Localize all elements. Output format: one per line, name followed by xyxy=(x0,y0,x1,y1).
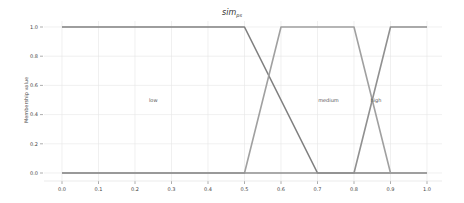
x-tick-label: 0.3 xyxy=(168,186,176,192)
x-tick-label: 0.6 xyxy=(277,186,285,192)
y-tick-label: 0.2 xyxy=(30,141,38,147)
x-tick-label: 0.9 xyxy=(387,186,395,192)
x-tick-label: 0.7 xyxy=(314,186,322,192)
x-tick-label: 0.1 xyxy=(95,186,103,192)
x-tick-label: 0.2 xyxy=(131,186,139,192)
region-label-high: high xyxy=(370,97,381,104)
region-label-low: low xyxy=(149,97,158,103)
y-axis-label: Membership value xyxy=(23,77,30,123)
x-tick-label: 0.5 xyxy=(241,186,249,192)
y-tick-label: 0.0 xyxy=(30,170,38,176)
x-tick-label: 0.0 xyxy=(58,186,66,192)
region-labels: lowmediumhigh xyxy=(149,97,381,104)
chart-title: simps xyxy=(222,8,242,19)
axes: 0.00.10.20.30.40.50.60.70.80.91.00.00.20… xyxy=(30,24,442,192)
region-label-medium: medium xyxy=(318,97,339,103)
y-tick-label: 1.0 xyxy=(30,24,38,30)
membership-chart: 0.00.10.20.30.40.50.60.70.80.91.00.00.20… xyxy=(0,0,464,203)
x-tick-label: 0.4 xyxy=(204,186,212,192)
y-tick-label: 0.4 xyxy=(30,111,38,117)
grid-lines xyxy=(44,21,442,181)
y-tick-label: 0.6 xyxy=(30,82,38,88)
y-tick-label: 0.8 xyxy=(30,53,38,59)
x-tick-label: 0.8 xyxy=(350,186,358,192)
x-tick-label: 1.0 xyxy=(423,186,431,192)
